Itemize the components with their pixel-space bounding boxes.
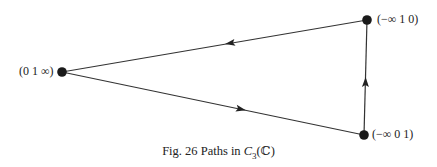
caption-prefix: Fig. 26 Paths in [162, 144, 244, 158]
figure-caption: Fig. 26 Paths in C3(ℂ) [0, 143, 437, 161]
node-label-bottom-right: (−∞ 0 1) [372, 127, 413, 142]
node-label-top-right: (−∞ 1 0) [377, 12, 418, 27]
node-left [57, 67, 67, 77]
caption-math: C [244, 144, 252, 158]
node-top-right [362, 15, 372, 25]
caption-suffix: (ℂ) [257, 144, 275, 158]
edge-left-to-bottom-right [62, 72, 364, 135]
node-label-left: (0 1 ∞) [19, 64, 54, 79]
edge-top-right-to-left [62, 20, 367, 72]
node-bottom-right [359, 130, 369, 140]
arrowhead-right-icon [235, 105, 246, 114]
